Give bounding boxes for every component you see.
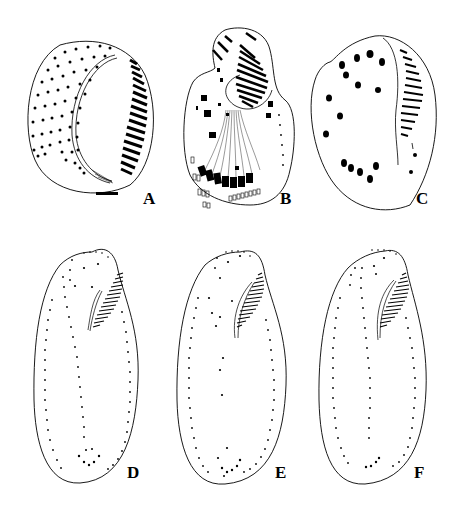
panel-e-drawing: [177, 250, 286, 484]
panel-label-b: B: [280, 190, 291, 207]
panel-d-kinety-dots: [44, 251, 131, 470]
panel-c-drawing: [311, 36, 436, 210]
panel-label-d: D: [127, 464, 139, 481]
panel-b-drawing: [184, 28, 294, 208]
panel-d-drawing: [34, 249, 138, 483]
panel-label-a: A: [143, 190, 155, 207]
panel-e-kinety-dots: [188, 250, 275, 477]
panel-label-f: F: [414, 464, 424, 481]
panel-a-drawing: [28, 41, 154, 195]
panel-f-drawing: [319, 249, 426, 484]
panel-label-e: E: [275, 464, 286, 481]
panel-label-c: C: [416, 190, 428, 207]
figure-canvas: [0, 0, 457, 511]
